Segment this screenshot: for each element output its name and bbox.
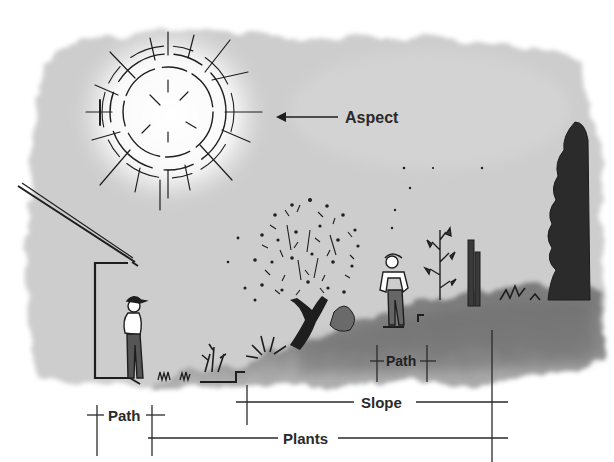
aspect-label: Aspect	[345, 110, 398, 126]
path-lower-label: Path	[108, 408, 141, 423]
slope-label: Slope	[361, 395, 402, 410]
path-upper-label: Path	[386, 354, 416, 368]
plants-label: Plants	[283, 431, 328, 446]
landscape-illustration	[0, 0, 614, 462]
